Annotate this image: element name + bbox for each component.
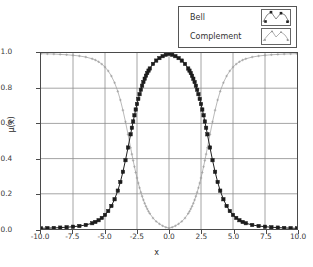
legend-swatch-bell bbox=[261, 9, 291, 26]
x-tick-mark bbox=[201, 230, 202, 234]
legend-item-bell[interactable]: Bell bbox=[182, 8, 293, 27]
y-tick-label: 0.8 bbox=[1, 83, 12, 92]
y-tick-mark bbox=[36, 123, 40, 124]
x-tick-mark bbox=[105, 230, 106, 234]
chart-figure: 0.00.20.40.60.81.0-10.0-7.5-5.0-2.50.02.… bbox=[0, 0, 313, 267]
y-tick-label: 0.4 bbox=[1, 154, 12, 163]
x-tick-mark bbox=[266, 230, 267, 234]
y-tick-mark bbox=[36, 88, 40, 89]
legend-label-bell: Bell bbox=[184, 13, 205, 22]
y-axis-label: μ(x) bbox=[7, 105, 16, 145]
legend: Bell Complement bbox=[178, 6, 297, 48]
x-axis-label: x bbox=[0, 248, 313, 257]
data-series-layer bbox=[41, 53, 297, 229]
x-tick-mark bbox=[298, 230, 299, 234]
y-tick-mark bbox=[36, 194, 40, 195]
x-tick-mark bbox=[234, 230, 235, 234]
legend-item-complement[interactable]: Complement bbox=[182, 27, 293, 46]
y-tick-label: 1.0 bbox=[1, 47, 12, 56]
y-tick-mark bbox=[36, 52, 40, 53]
y-tick-mark bbox=[36, 159, 40, 160]
legend-label-complement: Complement bbox=[184, 32, 241, 41]
legend-swatch-complement bbox=[261, 28, 291, 45]
x-tick-mark bbox=[137, 230, 138, 234]
x-tick-mark bbox=[72, 230, 73, 234]
x-tick-mark bbox=[40, 230, 41, 234]
plot-area bbox=[40, 52, 298, 230]
y-tick-label: 0.0 bbox=[1, 225, 12, 234]
y-tick-label: 0.2 bbox=[1, 189, 12, 198]
x-tick-mark bbox=[169, 230, 170, 234]
